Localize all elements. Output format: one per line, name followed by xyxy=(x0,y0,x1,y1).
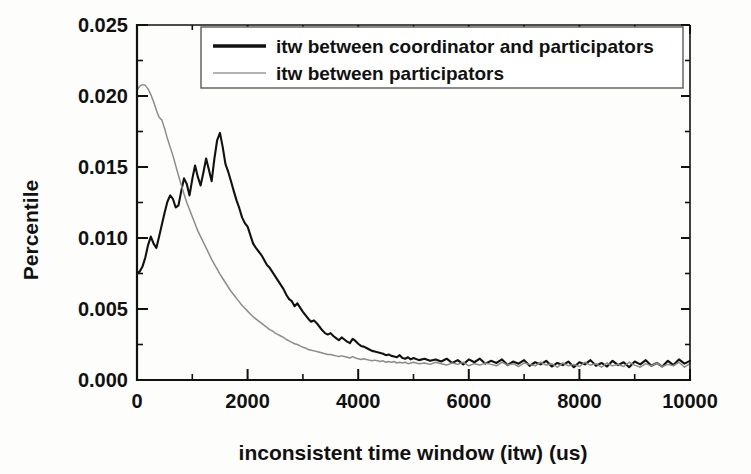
y-axis-title: Percentile xyxy=(19,180,42,280)
y-tick-label: 0.010 xyxy=(78,227,128,249)
y-tick-label: 0.015 xyxy=(78,156,128,178)
legend-label-series-1: itw between coordinator and participator… xyxy=(276,36,654,57)
y-tick-label: 0.020 xyxy=(78,85,128,107)
legend-label-series-2: itw between participators xyxy=(276,63,504,84)
x-tick-label: 0 xyxy=(131,390,142,412)
y-tick-label: 0.005 xyxy=(78,298,128,320)
chart-legend[interactable]: itw between coordinator and participator… xyxy=(201,27,683,88)
y-tick-label: 0.000 xyxy=(78,369,128,391)
chart-figure: 02000400060008000100000.0000.0050.0100.0… xyxy=(0,0,751,474)
x-tick-label: 10000 xyxy=(662,390,718,412)
x-tick-label: 2000 xyxy=(225,390,270,412)
x-tick-label: 8000 xyxy=(557,390,602,412)
y-tick-label: 0.025 xyxy=(78,14,128,36)
x-tick-label: 6000 xyxy=(447,390,492,412)
x-tick-label: 4000 xyxy=(336,390,381,412)
x-axis-title: inconsistent time window (itw) (us) xyxy=(239,441,588,464)
line-chart: 02000400060008000100000.0000.0050.0100.0… xyxy=(0,0,751,474)
